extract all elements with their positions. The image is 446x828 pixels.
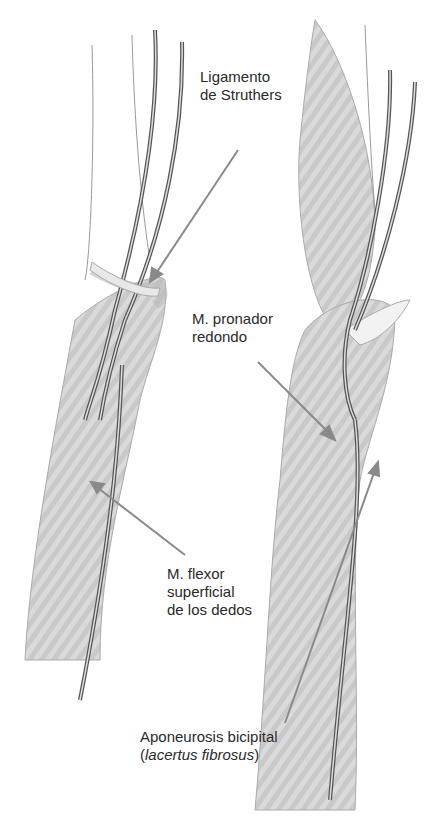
biceps-muscle (299, 20, 375, 330)
flexor-line3: de los dedos (167, 601, 252, 619)
label-flexor-digitorum: M. flexor superficial de los dedos (167, 565, 252, 619)
label-bicipital-aponeurosis: Aponeurosis bicipital (lacertus fibrosus… (140, 728, 278, 764)
label-struthers-ligament: Ligamento de Struthers (200, 68, 282, 104)
right-arm (255, 20, 415, 810)
pronador-line1: M. pronador (192, 310, 273, 328)
pronador-line2: redondo (192, 328, 273, 346)
aponeurosis-line2: (lacertus fibrosus) (140, 746, 278, 764)
struthers-line2: de Struthers (200, 86, 282, 104)
struthers-line1: Ligamento (200, 68, 282, 86)
flexor-line1: M. flexor (167, 565, 252, 583)
label-pronator-teres: M. pronador redondo (192, 310, 273, 346)
anatomy-illustration (0, 0, 446, 828)
latin-name: lacertus fibrosus (145, 746, 254, 763)
left-arm (25, 30, 182, 700)
flexor-line2: superficial (167, 583, 252, 601)
paren-close: ) (254, 746, 259, 763)
aponeurosis-line1: Aponeurosis bicipital (140, 728, 278, 746)
